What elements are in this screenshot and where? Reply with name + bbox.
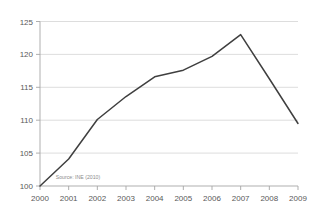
y-axis-label-115: 115 xyxy=(20,83,33,92)
x-axis-label-2008: 2008 xyxy=(260,194,278,203)
x-axis-label-2000: 2000 xyxy=(31,194,49,203)
x-axis-label-2004: 2004 xyxy=(146,194,164,203)
x-axis-label-2006: 2006 xyxy=(203,194,221,203)
x-axis-label-2001: 2001 xyxy=(60,194,78,203)
x-axis-label-2002: 2002 xyxy=(88,194,106,203)
y-axis-label-125: 125 xyxy=(20,18,34,27)
chart-canvas: 125 120 115 110 105 100 2000 2001 2002 2… xyxy=(0,0,309,224)
y-axis-label-120: 120 xyxy=(20,50,34,59)
x-axis-label-2005: 2005 xyxy=(174,194,192,203)
y-axis-label-110: 110 xyxy=(20,116,33,125)
x-axis-label-2003: 2003 xyxy=(117,194,135,203)
line-chart: 125 120 115 110 105 100 2000 2001 2002 2… xyxy=(0,0,309,224)
chart-background xyxy=(0,0,309,224)
x-axis-label-2009: 2009 xyxy=(289,194,307,203)
source-note: Source: INE (2010) xyxy=(56,174,101,180)
y-axis-label-105: 105 xyxy=(20,149,34,158)
y-axis-label-100: 100 xyxy=(20,182,34,191)
x-axis-label-2007: 2007 xyxy=(232,194,250,203)
